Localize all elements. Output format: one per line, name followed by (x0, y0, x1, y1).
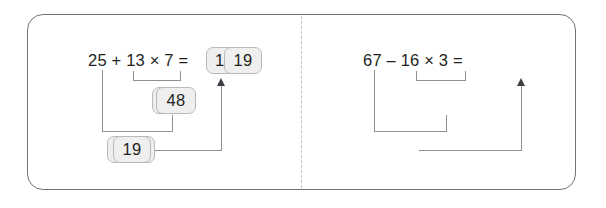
result-box-right: 19 (224, 47, 262, 74)
arrow-horizontal-segment-right (419, 150, 522, 151)
expression-left: 25 + 13 × 7 = (88, 49, 188, 71)
outer-bracket-span (102, 131, 173, 132)
multiplication-bracket-left-span-right (416, 80, 466, 81)
multiplication-bracket-left-span (133, 80, 181, 81)
outer-bracket-span-right (374, 131, 447, 132)
outer-bracket-right-tick-right (446, 115, 447, 132)
multiplication-bracket-right-tick-right (465, 71, 466, 81)
arrow-head-icon (217, 78, 225, 86)
intermediate-product-box-right: 48 (156, 87, 196, 114)
arrow-head-icon-right (517, 78, 525, 86)
outer-bracket-right-tick (172, 115, 173, 132)
arrow-vertical-segment-left (221, 85, 222, 151)
expression-right: 67 – 16 × 3 = (363, 49, 463, 71)
outer-bracket-left-tick-right (374, 70, 375, 132)
outer-bracket-left-tick (102, 70, 103, 132)
arrow-vertical-segment-right (521, 85, 522, 151)
worked-examples-figure: 25 + 13 × 7 = 116 91 116 67 – 16 × 3 = 1… (0, 0, 606, 208)
arrow-horizontal-segment-left (155, 150, 222, 151)
multiplication-bracket-right-tick (180, 71, 181, 81)
panel-divider (301, 16, 302, 188)
difference-box-right: 19 (113, 136, 151, 163)
example-panel-left: 25 + 13 × 7 = 116 91 116 (0, 0, 300, 208)
